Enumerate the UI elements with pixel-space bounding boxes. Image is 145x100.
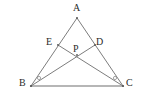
segment-side-AB bbox=[31, 18, 77, 86]
segment-cevian-CE bbox=[58, 45, 123, 86]
vertex-label-B: B bbox=[19, 78, 26, 88]
angle-mark-at-C-icon bbox=[113, 76, 116, 79]
vertex-label-E: E bbox=[46, 37, 52, 47]
angle-mark-at-B-icon bbox=[37, 76, 40, 79]
segment-cevian-BD bbox=[31, 45, 95, 86]
vertex-label-P: P bbox=[73, 44, 79, 54]
vertex-label-D: D bbox=[96, 37, 103, 47]
point-C-dot bbox=[122, 85, 124, 87]
point-P-dot bbox=[76, 54, 78, 56]
vertex-label-C: C bbox=[126, 78, 133, 88]
geometry-figure: A B C D E P bbox=[0, 0, 145, 100]
point-B-dot bbox=[30, 85, 32, 87]
vertex-label-A: A bbox=[73, 3, 80, 13]
point-A-dot bbox=[76, 17, 78, 19]
point-E-dot bbox=[57, 44, 59, 46]
